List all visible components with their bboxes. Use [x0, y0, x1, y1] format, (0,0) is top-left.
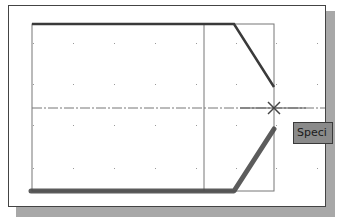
grid-dot — [276, 168, 277, 169]
drawing-canvas[interactable] — [0, 0, 343, 222]
grid-dot — [196, 125, 197, 126]
grid-dot — [33, 168, 34, 169]
tooltip-text: Speci — [297, 126, 327, 139]
command-tooltip: Speci — [293, 122, 333, 144]
grid-dot — [73, 43, 74, 44]
grid-dot — [155, 84, 156, 85]
grid-dot — [33, 43, 34, 44]
grid-dot — [236, 84, 237, 85]
grid-dot — [33, 125, 34, 126]
grid-dot — [114, 43, 115, 44]
grid-dot — [114, 168, 115, 169]
grid-dot — [33, 84, 34, 85]
grid-dot — [114, 125, 115, 126]
grid-dot — [317, 84, 318, 85]
grid-dot — [236, 43, 237, 44]
grid-dot — [196, 168, 197, 169]
grid-dot — [317, 168, 318, 169]
grid-dot — [317, 43, 318, 44]
grid-dot — [196, 43, 197, 44]
grid-dot — [276, 43, 277, 44]
top-profile-line[interactable] — [32, 24, 274, 87]
grid-dot — [236, 125, 237, 126]
bottom-profile-line-highlighted[interactable] — [31, 129, 274, 191]
grid-dot — [276, 84, 277, 85]
grid-dot — [73, 84, 74, 85]
grid-dot — [196, 84, 197, 85]
grid-dot — [73, 125, 74, 126]
grid-dot — [155, 125, 156, 126]
grid-dot — [155, 43, 156, 44]
grid-dot — [155, 168, 156, 169]
grid-dot — [114, 84, 115, 85]
grid-dot — [73, 168, 74, 169]
grid-dot — [236, 168, 237, 169]
grid-dot — [276, 125, 277, 126]
